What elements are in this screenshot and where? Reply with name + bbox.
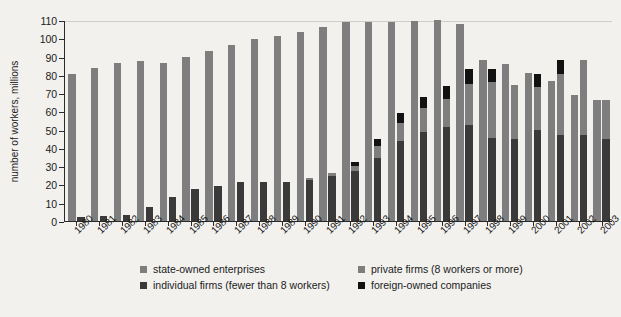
bar-stacked-2001 [557, 60, 564, 221]
segment-individual-1997 [465, 125, 472, 221]
year-group-1980 [68, 21, 84, 221]
legend-item-2[interactable]: private firms (8 workers or more) [358, 263, 523, 276]
segment-private-2002 [580, 60, 587, 135]
bar-stacked-1997 [465, 69, 472, 221]
y-axis-title: number of workers, millions [8, 21, 21, 222]
legend-swatch-icon [358, 266, 365, 273]
x-axis-labels: 1980198119821983198419851986198719881989… [65, 222, 613, 264]
segment-individual-2002 [580, 135, 587, 221]
bar-state-owned-1994 [388, 22, 395, 221]
year-group-1994 [388, 21, 404, 221]
y-tick [59, 131, 64, 132]
year-group-1996 [434, 21, 450, 221]
bar-state-owned-1981 [91, 68, 98, 221]
segment-private-1994 [397, 123, 404, 142]
y-tick-label: 30 [46, 162, 57, 173]
legend-swatch-icon [140, 282, 147, 289]
year-group-1992 [342, 21, 358, 221]
year-group-1997 [456, 21, 472, 221]
segment-individual-1996 [443, 127, 450, 221]
legend-item-1[interactable]: individual firms (fewer than 8 workers) [140, 279, 330, 292]
bar-state-owned-1980 [68, 74, 75, 221]
segment-foreignowned-1995 [420, 97, 427, 109]
segment-individual-1993 [374, 158, 381, 221]
segment-private-1996 [443, 99, 450, 127]
y-tick [59, 58, 64, 59]
segment-private-1997 [465, 84, 472, 125]
year-group-1989 [274, 21, 290, 221]
year-group-2003 [593, 21, 609, 221]
bar-state-owned-1989 [274, 36, 281, 221]
segment-private-2001 [557, 74, 564, 135]
year-group-2000 [525, 21, 541, 221]
bar-stacked-1998 [488, 69, 495, 221]
year-group-1984 [160, 21, 176, 221]
bar-state-owned-1993 [365, 22, 372, 221]
bar-state-owned-1991 [319, 27, 326, 221]
bar-state-owned-2002 [571, 95, 578, 221]
year-group-2002 [571, 21, 587, 221]
y-tick [59, 76, 64, 77]
bar-state-owned-1996 [434, 20, 441, 221]
year-group-1983 [137, 21, 153, 221]
bar-state-owned-1992 [342, 22, 349, 221]
y-tick-label: 110 [41, 16, 57, 27]
year-group-1995 [411, 21, 427, 221]
segment-individual-2001 [557, 135, 564, 221]
segment-individual-1999 [511, 139, 518, 221]
bar-chart: number of workers, millions 010203040506… [0, 0, 621, 317]
segment-private-1993 [374, 146, 381, 158]
segment-private-1995 [420, 108, 427, 132]
segment-private-2003 [602, 100, 609, 139]
bar-state-owned-1985 [182, 57, 189, 221]
segment-foreignowned-1994 [397, 113, 404, 123]
y-tick [59, 185, 64, 186]
year-group-1986 [205, 21, 221, 221]
bar-state-owned-2000 [525, 73, 532, 221]
legend-item-3[interactable]: foreign-owned companies [358, 279, 491, 292]
legend-item-0[interactable]: state-owned enterprises [140, 263, 265, 276]
y-tick-label: 0 [51, 217, 57, 228]
y-tick-label: 60 [46, 107, 57, 118]
year-group-1993 [365, 21, 381, 221]
year-group-1981 [91, 21, 107, 221]
year-group-1982 [114, 21, 130, 221]
bar-state-owned-1983 [137, 61, 144, 221]
bar-state-owned-2003 [593, 100, 600, 221]
chart-legend: state-owned enterprisesindividual firms … [140, 263, 560, 299]
bar-stacked-1999 [511, 85, 518, 221]
bar-stacked-2003 [602, 100, 609, 221]
segment-individual-1991 [328, 176, 335, 221]
segment-foreignowned-2000 [534, 74, 541, 87]
segment-foreignowned-1993 [374, 139, 381, 146]
y-tick [59, 149, 64, 150]
segment-private-2000 [534, 87, 541, 130]
y-tick [59, 167, 64, 168]
bar-state-owned-1986 [205, 51, 212, 221]
bar-stacked-2000 [534, 74, 541, 221]
bar-state-owned-1999 [502, 64, 509, 221]
segment-individual-1994 [397, 141, 404, 221]
y-tick-label: 90 [46, 52, 57, 63]
legend-swatch-icon [358, 282, 365, 289]
year-group-2001 [548, 21, 564, 221]
year-group-1987 [228, 21, 244, 221]
segment-individual-2000 [534, 130, 541, 221]
y-tick-label: 20 [46, 180, 57, 191]
y-tick [59, 39, 64, 40]
year-group-1988 [251, 21, 267, 221]
bar-state-owned-1998 [479, 60, 486, 221]
y-tick [59, 94, 64, 95]
y-tick [59, 112, 64, 113]
segment-individual-1992 [351, 171, 358, 221]
segment-private-1999 [511, 85, 518, 140]
segment-foreignowned-1996 [443, 86, 450, 98]
segment-individual-2003 [602, 139, 609, 221]
bar-stacked-1991 [328, 173, 335, 221]
bar-state-owned-2001 [548, 81, 555, 221]
legend-label: individual firms (fewer than 8 workers) [153, 279, 330, 292]
legend-swatch-icon [140, 266, 147, 273]
legend-label: private firms (8 workers or more) [371, 263, 523, 276]
bar-state-owned-1995 [411, 21, 418, 221]
y-tick-label: 40 [46, 144, 57, 155]
